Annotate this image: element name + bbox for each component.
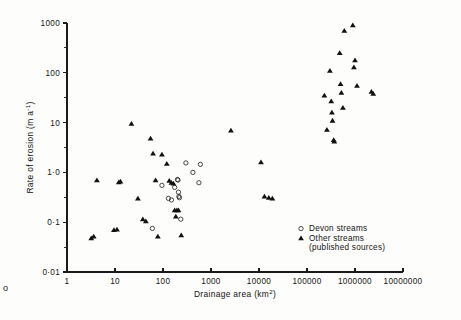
data-point-triangle bbox=[327, 68, 333, 73]
plot-canvas: 0·010·11·0101001000110100100010000100000… bbox=[0, 0, 461, 320]
data-point-triangle bbox=[159, 152, 165, 157]
x-tick-label: 10000000 bbox=[384, 277, 423, 286]
legend-marker-filled-triangle bbox=[298, 236, 304, 241]
y-axis-title: Rate of erosion (m a-1) bbox=[24, 101, 35, 193]
data-point-triangle bbox=[350, 23, 356, 28]
x-tick-label: 10 bbox=[110, 277, 120, 286]
data-point-triangle bbox=[228, 128, 234, 133]
scatter-plot-figure: 0·010·11·0101001000110100100010000100000… bbox=[0, 0, 461, 320]
x-tick-label: 100000 bbox=[292, 277, 321, 286]
data-point-triangle bbox=[155, 234, 161, 239]
y-tick-label: 1000 bbox=[41, 19, 61, 28]
axis-labels-layer: 0·010·11·0101001000110100100010000100000… bbox=[24, 19, 422, 299]
data-point-circle bbox=[197, 181, 201, 185]
data-point-triangle bbox=[354, 83, 360, 88]
data-point-triangle bbox=[150, 151, 156, 156]
data-point-circle bbox=[160, 183, 164, 187]
y-tick-label: 0·1 bbox=[47, 218, 60, 227]
data-point-triangle bbox=[148, 136, 154, 141]
data-point-circle bbox=[179, 217, 183, 221]
data-point-circle bbox=[198, 162, 202, 166]
data-point-triangle bbox=[340, 105, 346, 110]
data-point-triangle bbox=[164, 161, 170, 166]
page-stray-mark: o bbox=[3, 283, 8, 293]
data-point-triangle bbox=[153, 177, 159, 182]
data-point-triangle bbox=[328, 98, 334, 103]
legend-label: Other streams bbox=[309, 234, 364, 243]
data-point-triangle bbox=[91, 234, 97, 239]
data-point-triangle bbox=[341, 28, 347, 33]
data-point-triangle bbox=[330, 118, 336, 123]
data-point-triangle bbox=[351, 64, 357, 69]
x-tick-label: 1 bbox=[65, 277, 70, 286]
legend: Devon streamsOther streams(published sou… bbox=[298, 224, 385, 252]
data-point-circle bbox=[173, 185, 177, 189]
data-point-triangle bbox=[262, 194, 268, 199]
data-point-circle bbox=[191, 170, 195, 174]
data-points-layer bbox=[88, 23, 376, 241]
data-point-triangle bbox=[173, 214, 179, 219]
legend-marker-open-circle bbox=[299, 226, 303, 230]
legend-note: (published sources) bbox=[309, 243, 385, 252]
data-point-triangle bbox=[324, 127, 330, 132]
data-point-triangle bbox=[352, 57, 358, 62]
y-tick-label: 10 bbox=[50, 119, 60, 128]
data-point-circle bbox=[184, 161, 188, 165]
x-tick-label: 100 bbox=[156, 277, 171, 286]
data-point-circle bbox=[176, 190, 180, 194]
x-axis-title-close: ) bbox=[273, 289, 276, 299]
y-tick-label: 1·0 bbox=[47, 168, 60, 177]
data-point-triangle bbox=[258, 160, 264, 165]
data-point-triangle bbox=[94, 177, 100, 182]
x-axis-title: Drainage area (km2) bbox=[194, 288, 276, 299]
legend-label: Devon streams bbox=[309, 224, 367, 233]
y-tick-label: 100 bbox=[45, 69, 60, 78]
x-tick-label: 1000 bbox=[201, 277, 221, 286]
y-tick-label: 0·01 bbox=[42, 268, 60, 277]
y-axis-title-close: ) bbox=[25, 101, 35, 104]
data-point-triangle bbox=[338, 90, 344, 95]
x-tick-label: 10000 bbox=[247, 277, 271, 286]
data-point-triangle bbox=[337, 50, 343, 55]
x-tick-label: 1000000 bbox=[338, 277, 372, 286]
data-point-triangle bbox=[129, 121, 135, 126]
data-point-circle bbox=[150, 226, 154, 230]
series-other-streams bbox=[88, 23, 376, 241]
series-devon-streams bbox=[150, 161, 202, 231]
data-point-triangle bbox=[178, 232, 184, 237]
data-point-triangle bbox=[321, 93, 327, 98]
data-point-triangle bbox=[329, 110, 335, 115]
data-point-triangle bbox=[135, 196, 141, 201]
data-point-triangle bbox=[338, 81, 344, 86]
